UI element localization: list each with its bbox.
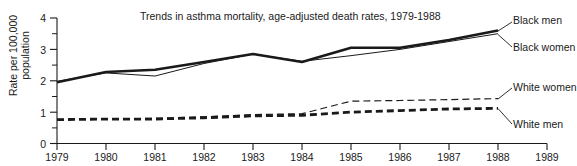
y-axis-major-ticks [50, 18, 57, 144]
leader-line-black-women [498, 35, 512, 48]
x-tick-label-1987: 1987 [429, 151, 469, 163]
leader-line-white-women [498, 88, 512, 99]
y-tick-label-3: 3 [28, 44, 46, 56]
series-label-white-men: White men [513, 118, 563, 130]
x-tick-label-1989: 1989 [527, 151, 567, 163]
leader-line-white-men [498, 109, 512, 125]
y-tick-label-0: 0 [28, 138, 46, 150]
series-line-black-women [57, 34, 498, 82]
series-label-black-women: Black women [513, 41, 575, 53]
x-tick-label-1984: 1984 [282, 151, 322, 163]
x-tick-label-1985: 1985 [331, 151, 371, 163]
series-label-black-men: Black men [513, 14, 562, 26]
y-tick-label-2: 2 [28, 75, 46, 87]
x-tick-label-1986: 1986 [380, 151, 420, 163]
series-line-black-men [57, 31, 498, 83]
x-tick-label-1988: 1988 [478, 151, 518, 163]
series-label-white-women: White women [513, 81, 577, 93]
x-tick-label-1983: 1983 [233, 151, 273, 163]
series-layer [57, 31, 498, 120]
x-tick-label-1980: 1980 [86, 151, 126, 163]
annotation-leader-lines [498, 22, 512, 123]
x-tick-label-1981: 1981 [135, 151, 175, 163]
x-tick-label-1979: 1979 [37, 151, 77, 163]
x-tick-label-1982: 1982 [184, 151, 224, 163]
x-axis-ticks [57, 144, 547, 151]
y-tick-label-4: 4 [28, 12, 46, 24]
leader-line-black-men [498, 22, 512, 31]
y-tick-label-1: 1 [28, 107, 46, 119]
